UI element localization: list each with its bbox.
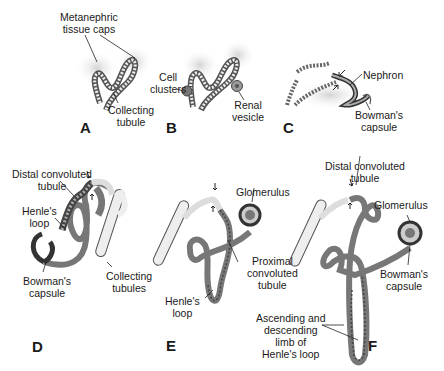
panel-letter-f: F [368, 337, 377, 354]
label-line: Metanephric [60, 11, 118, 23]
label-line: tubule [108, 116, 154, 128]
label-glomerulus-f: Glomerulus [374, 199, 428, 211]
panel-c-drawing [287, 63, 371, 110]
label-line: Ascending and [256, 312, 325, 324]
label-line: Distal convoluted [12, 168, 92, 180]
label-ascending-descending-limb: Ascending and descending limb of Henle's… [256, 312, 325, 360]
label-line: loop [22, 217, 57, 229]
label-line: loop [165, 307, 200, 319]
panel-e-drawing [152, 183, 260, 301]
label-line: convoluted [247, 267, 298, 279]
label-henles-loop-d: Henle's loop [22, 205, 57, 229]
label-line: Bowman's [23, 275, 71, 287]
label-renal-vesicle: Renal vesicle [232, 99, 264, 123]
label-collecting-tubules-d: Collecting tubules [106, 270, 152, 294]
label-line: Collecting [106, 270, 152, 282]
label-cell-clusters: Cell clusters [150, 71, 186, 95]
label-line: Henle's [165, 295, 200, 307]
panel-a-drawing [75, 35, 153, 110]
label-collecting-tubule-a: Collecting tubule [108, 104, 154, 128]
label-glomerulus-e: Glomerulus [236, 186, 290, 198]
label-line: Bowman's [380, 268, 428, 280]
label-line: Bowman's [355, 109, 403, 121]
label-line: capsule [380, 280, 428, 292]
label-line: capsule [355, 121, 403, 133]
label-line: Henle's [22, 205, 57, 217]
label-line: Proximal [247, 255, 298, 267]
label-line: Collecting [108, 104, 154, 116]
label-line: capsule [23, 287, 71, 299]
label-line: tubules [106, 282, 152, 294]
label-line: tissue caps [60, 23, 118, 35]
panel-letter-e: E [166, 337, 176, 354]
label-line: descending [256, 324, 325, 336]
label-bowmans-capsule-d: Bowman's capsule [23, 275, 71, 299]
label-nephron: Nephron [363, 69, 403, 81]
label-line: Renal [232, 99, 264, 111]
label-line: tubule [247, 279, 298, 291]
panel-letter-c: C [283, 119, 294, 136]
label-bowmans-capsule-f: Bowman's capsule [380, 268, 428, 292]
label-proximal-convoluted-tubule: Proximal convoluted tubule [247, 255, 298, 291]
label-line: limb of [256, 336, 325, 348]
panel-letter-b: B [166, 119, 177, 136]
label-henles-loop-e: Henle's loop [165, 295, 200, 319]
label-bowmans-capsule-c: Bowman's capsule [355, 109, 403, 133]
label-line: clusters [150, 83, 186, 95]
label-metanephric-tissue-caps: Metanephric tissue caps [60, 11, 118, 35]
label-line: vesicle [232, 111, 264, 123]
label-distal-convoluted-tubule-f: Distal convoluted tubule [325, 160, 405, 184]
label-line: Cell [150, 71, 186, 83]
label-line: Henle's loop [256, 348, 325, 360]
label-line: tubule [325, 172, 405, 184]
label-distal-convoluted-tubule-d: Distal convoluted tubule [12, 168, 92, 192]
label-line: tubule [12, 180, 92, 192]
panel-letter-a: A [80, 119, 91, 136]
panel-letter-d: D [32, 338, 43, 355]
label-line: Distal convoluted [325, 160, 405, 172]
